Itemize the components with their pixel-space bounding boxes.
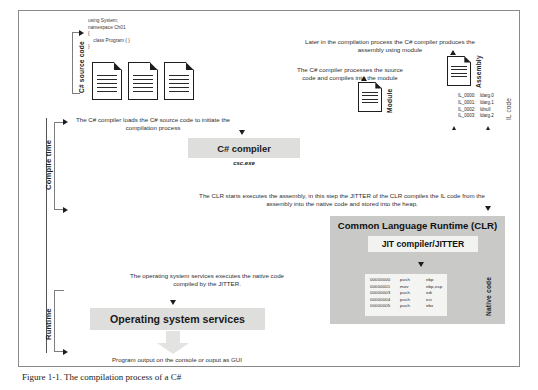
il-connector-arrow-left [452, 126, 456, 130]
il-code-label: IL_0003: [458, 113, 480, 120]
native-code-args: ebx [426, 303, 433, 308]
native-code-line: 00000001movebp,esp [370, 284, 442, 291]
csharp-compiler-subtitle: csc.exe [188, 160, 300, 166]
snippet-line-4: class Program { } [88, 38, 160, 45]
native-code-addr: 00000003 [370, 290, 400, 297]
clr-input-arrow [485, 206, 491, 211]
runtime-bracket [54, 290, 64, 352]
clr-title: Common Language Runtime (CLR) [330, 220, 505, 231]
compile-time-arrow-bottom [63, 207, 68, 213]
program-output-label: Program output on the console or ouput a… [82, 356, 272, 364]
assembly-input-arrow [450, 50, 456, 55]
native-code-args: ebp [426, 277, 434, 282]
snippet-line-2: namespace Ch01 [88, 25, 160, 32]
native-code-args: ebp,esp [426, 284, 442, 289]
source-document-icon-1 [92, 62, 122, 100]
snippet-line-3: { [88, 31, 160, 38]
jit-compiler-title: JIT compiler/JITTER [382, 239, 465, 249]
csharp-compiler-title: C# compiler [217, 143, 271, 154]
il-code-line: IL_0000:ldarg.0 [458, 93, 494, 100]
csharp-compiler-box[interactable]: C# compiler [188, 138, 300, 158]
os-services-box[interactable]: Operating system services [90, 308, 265, 330]
source-code-vertical-label: C# source code [78, 41, 85, 93]
native-code-op: push [400, 290, 426, 297]
il-code-instr: ldarg.0 [480, 93, 494, 98]
snippet-line-1: using System; [88, 18, 160, 25]
source-code-arrow [79, 30, 84, 36]
jit-output-arrow [418, 262, 424, 267]
il-code-instr: ldnull [480, 107, 491, 112]
native-code-op: mov [400, 284, 426, 291]
module-document-icon [358, 82, 382, 112]
compiler-input-arrow [239, 130, 245, 135]
snippet-line-5: } [88, 44, 160, 51]
os-input-arrow [170, 300, 176, 305]
compile-time-label: Compile time [44, 140, 53, 190]
il-code-label: IL_0002: [458, 107, 480, 114]
il-code-line: IL_0001:ldarg.1 [458, 100, 494, 107]
module-input-arrow [361, 76, 367, 81]
native-code-vertical-label: Native code [485, 277, 492, 316]
native-code-line: 00000005pushebx [370, 303, 442, 310]
il-code-instr: ldarg.1 [480, 100, 494, 105]
native-code-op: push [400, 297, 426, 304]
native-code-addr: 00000001 [370, 284, 400, 291]
il-code-label: IL_0001: [458, 100, 480, 107]
il-code-label: IL_0000: [458, 93, 480, 100]
native-code-line: 00000000pushebp [370, 277, 442, 284]
native-code-args: edi [426, 290, 432, 295]
os-services-title: Operating system services [110, 313, 245, 325]
module-vertical-label: Module [386, 89, 393, 113]
assembly-vertical-label: Assembly [475, 55, 482, 88]
program-output-arrow-head [157, 343, 189, 354]
il-code-vertical-label: IL code [505, 98, 512, 120]
figure-canvas: Compile time Runtime C# source code usin… [0, 0, 538, 390]
assembly-document-icon [447, 56, 471, 86]
annotation-produces-assembly: Later in the compilation process the C# … [292, 38, 488, 54]
native-code-panel: 00000000pushebp 00000001movebp,esp 00000… [365, 274, 447, 316]
runtime-arrow-bottom [63, 349, 68, 355]
il-code-instr: ldarg.2 [480, 113, 494, 118]
source-document-icon-3 [164, 62, 194, 100]
annotation-clr-executes: The CLR starts executes the assembly, in… [192, 192, 492, 208]
native-code-args: esi [426, 297, 432, 302]
source-code-snippet: using System; namespace Ch01 { class Pro… [88, 18, 160, 51]
il-code-line: IL_0003:ldarg.2 [458, 113, 494, 120]
native-code-op: push [400, 303, 426, 310]
native-code-line: 00000004pushesi [370, 297, 442, 304]
annotation-loads-source: The C# compiler loads the C# source code… [68, 116, 238, 132]
annotation-processes-source: The C# compiler processes the source cod… [290, 66, 410, 82]
native-code-op: push [400, 277, 426, 284]
native-code-addr: 00000004 [370, 297, 400, 304]
native-code-line: 00000003pushedi [370, 290, 442, 297]
native-code-addr: 00000000 [370, 277, 400, 284]
annotation-os-executes: The operating system services executes t… [122, 272, 292, 288]
jit-compiler-box[interactable]: JIT compiler/JITTER [368, 236, 478, 252]
il-connector-arrow-right [486, 126, 490, 130]
native-code-addr: 00000005 [370, 303, 400, 310]
runtime-label: Runtime [44, 308, 53, 340]
figure-caption: Figure 1-1. The compilation process of a… [22, 372, 181, 382]
compile-time-bracket [54, 122, 64, 210]
source-document-icon-2 [128, 62, 158, 100]
il-code-panel: IL_0000:ldarg.0 IL_0001:ldarg.1 IL_0002:… [458, 93, 494, 120]
il-code-line: IL_0002:ldnull [458, 107, 494, 114]
